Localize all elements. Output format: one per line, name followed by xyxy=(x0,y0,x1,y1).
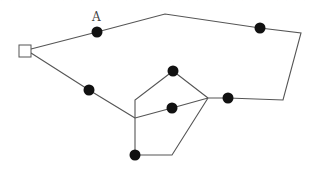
node-n6 xyxy=(130,150,141,161)
node-a xyxy=(92,27,103,38)
graph-nodes xyxy=(84,23,266,161)
start-square-node xyxy=(19,45,31,57)
node-n4 xyxy=(168,66,179,77)
edge-path-1 xyxy=(31,53,135,118)
graph-diagram: A xyxy=(0,0,311,170)
node-n3 xyxy=(84,85,95,96)
graph-edges xyxy=(31,14,301,155)
node-n5 xyxy=(167,103,178,114)
node-n1 xyxy=(255,23,266,34)
start-node xyxy=(19,45,31,57)
node-n2 xyxy=(223,93,234,104)
node-labels: A xyxy=(91,10,101,24)
node-label: A xyxy=(91,10,101,24)
